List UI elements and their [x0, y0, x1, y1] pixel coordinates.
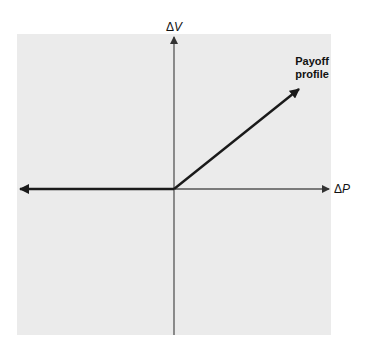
payoff-profile-label: Payoff profile — [292, 55, 332, 81]
x-axis-label: ΔP — [334, 182, 350, 196]
payoff-diagram — [0, 0, 368, 343]
y-axis-label: ΔV — [166, 20, 182, 34]
payoff-rising-segment — [174, 89, 299, 189]
